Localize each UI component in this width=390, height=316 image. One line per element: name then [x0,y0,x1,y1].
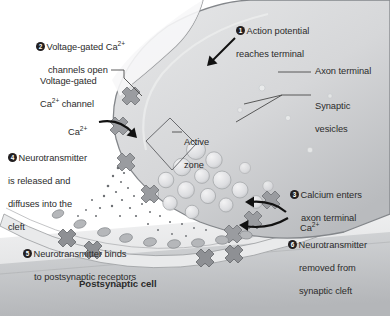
vg-channel-line2-post: channel [59,99,94,109]
calcium-left-pre: Ca [68,127,80,137]
active-zone-label: Active zone [184,125,230,171]
calcium-right-superscript: 2+ [312,221,319,228]
synaptic-vesicles-label: Synaptic vesicles [315,89,385,135]
step-1-line1: Action potential [247,26,310,36]
step-1-line2: reaches terminal [236,49,304,59]
step-4-line3: diffuses into the [8,199,72,209]
step-5-label: 5Neurotransmitter binds to postsynaptic … [23,237,188,283]
step-6-label: 6Neurotransmitter removed from synaptic … [288,228,388,298]
synaptic-vesicles-line2: vesicles [315,124,348,134]
step-5-line1: Neurotransmitter binds [34,249,127,259]
step-1-label: 1Action potential reaches terminal [236,14,386,60]
vg-channel-line2-pre: Ca [40,99,52,109]
step-4-label: 4Neurotransmitter is released and diffus… [8,141,118,234]
step-6-badge: 6 [288,240,297,249]
step-4-line4: cleft [8,222,25,232]
synapse-diagram-figure: 1Action potential reaches terminal 2Volt… [0,0,390,316]
synaptic-vesicles-line1: Synaptic [315,101,350,111]
step-2-superscript: 2+ [118,40,125,47]
step-2-badge: 2 [36,42,45,51]
step-1-badge: 1 [236,26,245,35]
active-zone-line1: Active [184,137,209,147]
step-4-badge: 4 [8,153,17,162]
step-6-line3: synaptic cleft [299,286,352,296]
voltage-gated-channel-label: Voltage-gated Ca2+ channel [40,64,150,110]
vg-channel-line1: Voltage-gated [40,76,97,86]
step-3-line1: Calcium enters [301,190,362,200]
postsynaptic-cell-label: Postsynaptic cell [79,278,157,290]
calcium-ion-label-left: Ca2+ [68,115,87,138]
step-3-badge: 3 [290,190,299,199]
active-zone-line2: zone [184,160,204,170]
step-5-badge: 5 [23,249,32,258]
axon-terminal-label: Axon terminal [315,66,371,78]
step-4-line2: is released and [8,176,70,186]
step-6-line1: Neurotransmitter [299,240,367,250]
step-6-line2: removed from [299,263,356,273]
step-4-line1: Neurotransmitter [19,153,87,163]
step-2-line1-pre: Voltage-gated Ca [47,42,118,52]
calcium-left-superscript: 2+ [80,125,87,132]
